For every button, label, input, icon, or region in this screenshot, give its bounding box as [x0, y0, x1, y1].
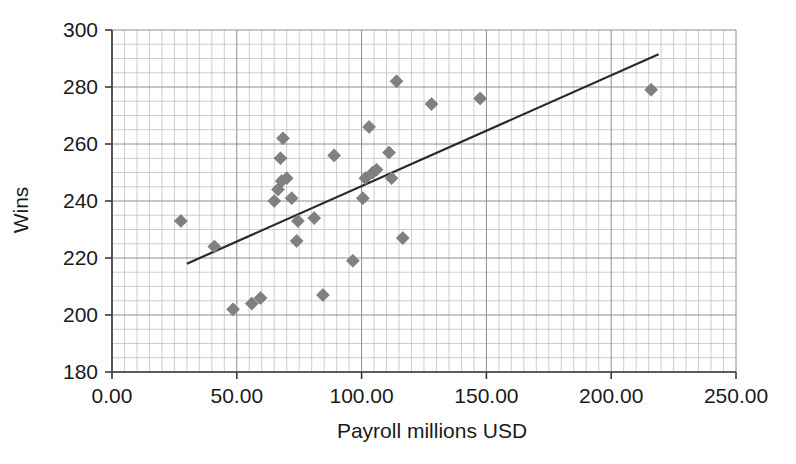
- data-point-marker: [346, 254, 359, 267]
- data-point-marker: [285, 192, 298, 205]
- x-tick-label: 50.00: [211, 384, 264, 407]
- data-point-marker: [390, 75, 403, 88]
- data-point-marker: [474, 92, 487, 105]
- data-point-marker: [276, 132, 289, 145]
- y-tick-label: 180: [63, 360, 98, 383]
- y-tick-label: 260: [63, 132, 98, 155]
- x-axis-title: Payroll millions USD: [337, 419, 527, 442]
- data-point-marker: [425, 98, 438, 111]
- y-axis-title: Wins: [9, 187, 32, 234]
- chart-canvas: 0.0050.00100.00150.00200.00250.00 180200…: [0, 0, 796, 464]
- y-tick-label: 220: [63, 246, 98, 269]
- data-point-marker: [290, 234, 303, 247]
- data-point-marker: [645, 83, 658, 96]
- y-tick-label: 200: [63, 303, 98, 326]
- x-tick-label: 250.00: [704, 384, 768, 407]
- scatter-chart: 0.0050.00100.00150.00200.00250.00 180200…: [0, 0, 796, 464]
- data-point-marker: [383, 146, 396, 159]
- y-tick-label: 240: [63, 189, 98, 212]
- x-tick-label: 150.00: [454, 384, 518, 407]
- data-point-marker: [208, 240, 221, 253]
- data-point-marker: [308, 212, 321, 225]
- data-point-marker: [316, 289, 329, 302]
- data-point-marker: [227, 303, 240, 316]
- x-tick-label: 100.00: [329, 384, 393, 407]
- data-point-marker: [268, 195, 281, 208]
- data-point-marker: [174, 214, 187, 227]
- data-points: [174, 75, 657, 316]
- y-axis-tick-labels: 180200220240260280300: [63, 18, 98, 383]
- data-point-marker: [328, 149, 341, 162]
- data-point-marker: [356, 192, 369, 205]
- y-tick-label: 280: [63, 75, 98, 98]
- x-axis-tick-labels: 0.0050.00100.00150.00200.00250.00: [92, 384, 769, 407]
- trend-line: [187, 54, 659, 263]
- data-point-marker: [274, 152, 287, 165]
- regression-line: [187, 54, 659, 263]
- x-tick-label: 200.00: [579, 384, 643, 407]
- data-point-marker: [363, 120, 376, 133]
- data-point-marker: [396, 232, 409, 245]
- x-tick-label: 0.00: [92, 384, 133, 407]
- y-tick-label: 300: [63, 18, 98, 41]
